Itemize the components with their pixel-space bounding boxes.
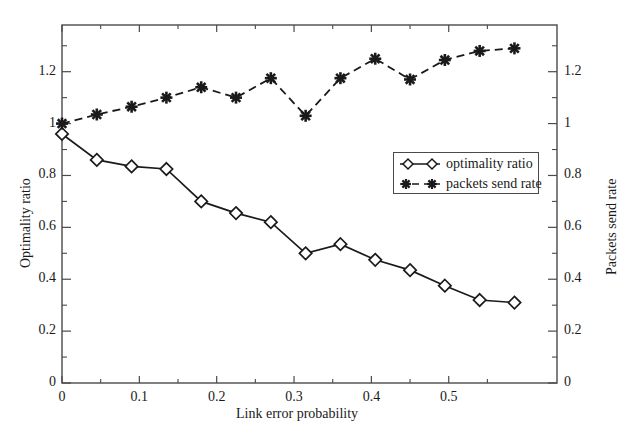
y-tick-label-left: 0.2	[18, 322, 56, 338]
data-point-star	[195, 81, 207, 93]
legend-marker-diamond	[394, 154, 446, 174]
legend-marker-star	[394, 174, 446, 194]
plot-frame	[62, 25, 557, 383]
data-point-star	[334, 72, 346, 84]
data-point-star	[474, 45, 486, 57]
y-tick-label-left: 0.4	[18, 270, 56, 286]
x-tick-label: 0.2	[202, 389, 232, 405]
y-tick-label-left: 0	[18, 374, 56, 390]
data-point-star	[439, 54, 451, 66]
data-point-diamond	[56, 128, 68, 140]
data-point-diamond	[473, 294, 485, 306]
data-point-star	[91, 109, 103, 121]
data-point-diamond	[125, 160, 137, 172]
axis-ticks	[62, 25, 557, 383]
data-point-diamond	[230, 207, 242, 219]
legend-label-packets-send-rate: packets send rate	[446, 176, 542, 192]
chart-legend[interactable]: optimality ratio	[393, 152, 539, 194]
x-tick-label: 0.3	[279, 389, 309, 405]
data-point-star	[369, 53, 381, 65]
data-point-star	[508, 42, 520, 54]
x-tick-label: 0.5	[434, 389, 464, 405]
data-point-diamond	[91, 154, 103, 166]
data-point-star	[300, 110, 312, 122]
legend-entry-packets-send-rate[interactable]: packets send rate	[394, 173, 540, 194]
x-tick-label: 0.1	[124, 389, 154, 405]
data-point-diamond	[404, 264, 416, 276]
data-point-star	[160, 92, 172, 104]
x-tick-label: 0.4	[356, 389, 386, 405]
y-tick-label-right: 0.4	[564, 270, 582, 286]
legend-label-optimality-ratio: optimality ratio	[446, 156, 533, 172]
data-point-star	[126, 101, 138, 113]
data-point-diamond	[334, 238, 346, 250]
y-tick-label-left: 1.2	[18, 63, 56, 79]
y-tick-label-right: 1.2	[564, 63, 582, 79]
data-point-star	[230, 92, 242, 104]
data-point-star	[265, 72, 277, 84]
data-point-diamond	[369, 254, 381, 266]
chart-figure: Optimality ratio Packets send rate Link …	[0, 0, 621, 434]
legend-entry-optimality-ratio[interactable]: optimality ratio	[394, 153, 540, 174]
x-tick-label: 0	[47, 389, 77, 405]
x-axis-label: Link error probability	[236, 406, 358, 422]
data-point-star	[56, 118, 68, 130]
y-tick-label-right: 0.2	[564, 322, 582, 338]
plot-canvas	[0, 0, 621, 434]
y-tick-label-left: 0.6	[18, 218, 56, 234]
y-tick-label-right: 0	[564, 374, 571, 390]
y-tick-label-left: 0.8	[18, 166, 56, 182]
y-tick-label-right: 0.8	[564, 166, 582, 182]
data-point-star	[404, 73, 416, 85]
data-point-diamond	[508, 296, 520, 308]
data-point-diamond	[439, 280, 451, 292]
y-tick-label-right: 0.6	[564, 218, 582, 234]
y-axis-label-right: Packets send rate	[604, 179, 620, 275]
y-tick-label-left: 1	[18, 115, 56, 131]
y-tick-label-right: 1	[564, 115, 571, 131]
